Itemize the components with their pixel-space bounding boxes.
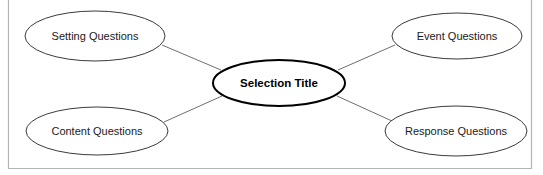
setting-questions-label: Setting Questions [52, 30, 139, 42]
connector-content-to-center [164, 96, 222, 122]
node-response-questions[interactable]: Response Questions [385, 106, 527, 156]
selection-title-label: Selection Title [240, 77, 318, 89]
node-content-questions[interactable]: Content Questions [26, 107, 168, 155]
connector-setting-to-center [162, 45, 221, 70]
node-selection-title[interactable]: Selection Title [213, 60, 345, 106]
response-questions-label: Response Questions [405, 125, 508, 137]
node-setting-questions[interactable]: Setting Questions [25, 11, 165, 61]
node-event-questions[interactable]: Event Questions [392, 13, 522, 59]
content-questions-label: Content Questions [51, 125, 143, 137]
connector-center-to-response [337, 96, 392, 121]
diagram-canvas: Setting Questions Content Questions Even… [0, 0, 543, 175]
connector-center-to-event [338, 45, 395, 70]
event-questions-label: Event Questions [417, 30, 498, 42]
relationship-diagram: Setting Questions Content Questions Even… [0, 0, 543, 175]
